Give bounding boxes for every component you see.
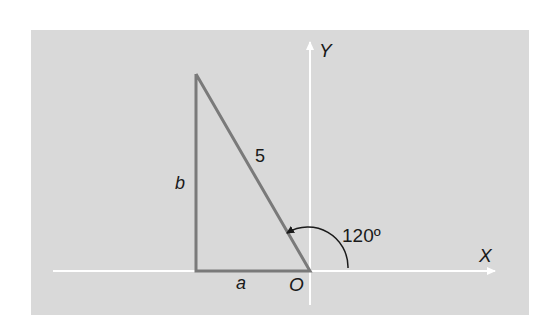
side-b-label: b (175, 173, 185, 194)
x-axis-label: X (479, 245, 492, 267)
origin-label: O (289, 274, 304, 296)
angle-label: 120º (342, 225, 381, 247)
diagram-canvas (0, 0, 552, 335)
hypotenuse-label: 5 (255, 146, 265, 167)
y-axis-label: Y (319, 40, 332, 62)
side-a-label: a (236, 273, 246, 294)
